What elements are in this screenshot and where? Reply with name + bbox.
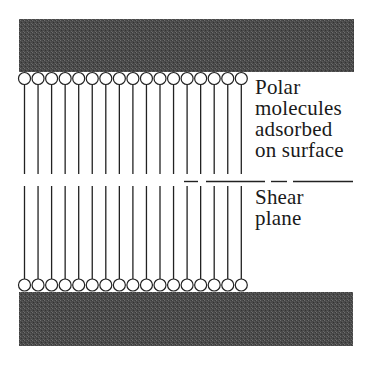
molecule-head — [154, 279, 166, 291]
molecule-head — [140, 279, 152, 291]
molecule-head — [19, 73, 31, 85]
bottom-surface-plate — [19, 292, 353, 346]
molecule-head — [168, 279, 180, 291]
molecule-head — [86, 73, 98, 85]
molecule-head — [222, 279, 234, 291]
molecule-head — [86, 279, 98, 291]
molecule-head — [168, 73, 180, 85]
top-polar-molecules — [19, 73, 248, 175]
molecule-head — [46, 73, 58, 85]
molecule-head — [140, 73, 152, 85]
molecule-head — [195, 73, 207, 85]
molecule-head — [46, 279, 58, 291]
bottom-polar-molecules — [19, 186, 248, 291]
molecule-head — [113, 279, 125, 291]
label-polar-line3: adsorbed — [255, 119, 332, 140]
molecule-head — [32, 73, 44, 85]
molecule-head — [113, 73, 125, 85]
molecule-head — [235, 279, 247, 291]
molecule-head — [59, 279, 71, 291]
lubrication-diagram — [0, 0, 375, 367]
molecule-head — [127, 279, 139, 291]
molecule-head — [100, 279, 112, 291]
molecule-head — [73, 279, 85, 291]
molecule-head — [127, 73, 139, 85]
label-shear-line1: Shear — [255, 187, 304, 208]
molecule-head — [195, 279, 207, 291]
molecule-head — [100, 73, 112, 85]
label-polar-line2: molecules — [255, 98, 342, 119]
molecule-head — [208, 279, 220, 291]
molecule-head — [154, 73, 166, 85]
molecule-head — [235, 73, 247, 85]
molecule-head — [222, 73, 234, 85]
molecule-head — [208, 73, 220, 85]
molecule-head — [73, 73, 85, 85]
molecule-head — [32, 279, 44, 291]
top-surface-plate — [19, 19, 354, 72]
molecule-head — [181, 279, 193, 291]
molecule-head — [19, 279, 31, 291]
label-shear-line2: plane — [255, 208, 301, 229]
label-polar-line4: on surface — [255, 140, 344, 161]
label-polar-line1: Polar — [255, 77, 300, 98]
molecule-head — [59, 73, 71, 85]
molecule-head — [181, 73, 193, 85]
